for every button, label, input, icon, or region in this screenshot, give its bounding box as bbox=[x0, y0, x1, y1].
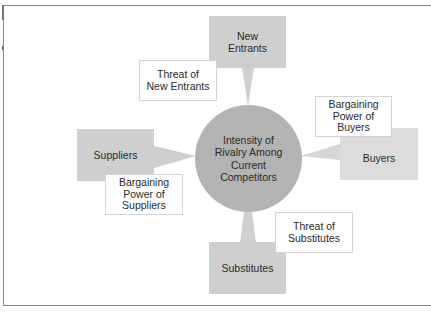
label-bargaining-power-suppliers: Bargaining Power of Suppliers bbox=[105, 174, 183, 215]
force-new-entrants: New Entrants bbox=[209, 16, 286, 68]
connector-new-entrants bbox=[242, 68, 254, 106]
center-rivalry-circle: Intensity of Rivalry Among Current Compe… bbox=[195, 105, 302, 212]
connector-suppliers bbox=[154, 146, 196, 168]
label-threat-substitutes-text: Threat of Substitutes bbox=[288, 221, 340, 244]
label-threat-substitutes: Threat of Substitutes bbox=[275, 212, 353, 253]
label-bargaining-power-suppliers-text: Bargaining Power of Suppliers bbox=[119, 177, 169, 212]
force-suppliers-label: Suppliers bbox=[94, 149, 138, 161]
center-rivalry-label: Intensity of Rivalry Among Current Compe… bbox=[215, 134, 283, 184]
force-buyers-label: Buyers bbox=[363, 152, 396, 164]
force-new-entrants-label: New Entrants bbox=[228, 30, 267, 54]
label-threat-new-entrants: Threat of New Entrants bbox=[139, 60, 217, 101]
label-threat-new-entrants-text: Threat of New Entrants bbox=[146, 69, 209, 92]
label-bargaining-power-buyers-text: Bargaining Power of Buyers bbox=[328, 99, 378, 134]
connector-substitutes bbox=[240, 211, 256, 243]
force-substitutes-label: Substitutes bbox=[222, 262, 274, 274]
connector-buyers bbox=[300, 144, 340, 160]
label-bargaining-power-buyers: Bargaining Power of Buyers bbox=[315, 96, 392, 137]
